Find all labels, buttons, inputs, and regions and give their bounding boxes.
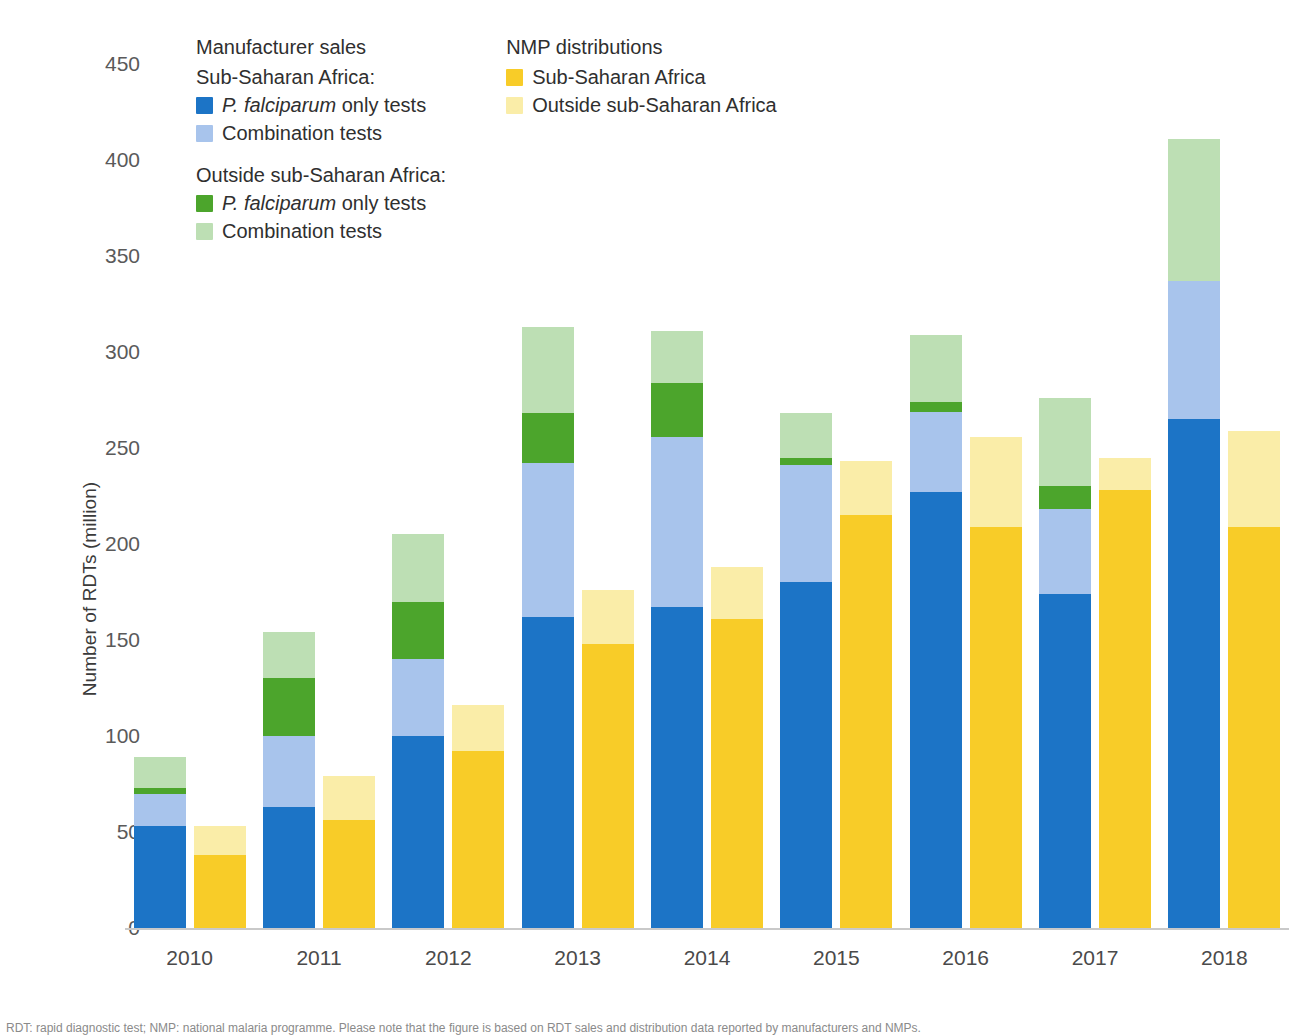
bar-segment-2015-s1[interactable] <box>840 461 892 515</box>
bar-segment-2013-s1[interactable] <box>582 590 634 644</box>
legend-item-manufacturer-sales-a-1[interactable]: Combination tests <box>196 119 446 147</box>
bar-segment-2015-s2[interactable] <box>780 458 832 466</box>
legend-swatch-icon <box>196 97 213 114</box>
bar-segment-2018-s1[interactable] <box>1168 281 1220 419</box>
bar-segment-2014-s0[interactable] <box>651 607 703 928</box>
bar-segment-2014-s0[interactable] <box>711 619 763 928</box>
bar-manufacturer-sales-2015[interactable] <box>780 413 832 928</box>
legend-label: Combination tests <box>222 217 382 245</box>
bar-segment-2017-s2[interactable] <box>1039 486 1091 509</box>
bar-nmp-distributions-2017[interactable] <box>1099 458 1151 928</box>
bar-group-2015 <box>772 413 901 928</box>
bar-segment-2013-s3[interactable] <box>522 327 574 413</box>
legend-label: Combination tests <box>222 119 382 147</box>
legend-item-manufacturer-sales-a-0[interactable]: P. falciparum only tests <box>196 91 446 119</box>
bar-segment-2018-s3[interactable] <box>1168 139 1220 281</box>
bar-segment-2012-s1[interactable] <box>392 659 444 736</box>
bar-segment-2010-s1[interactable] <box>194 826 246 855</box>
bar-segment-2015-s0[interactable] <box>780 582 832 928</box>
footnote-text: RDT: rapid diagnostic test; NMP: nationa… <box>0 1021 1299 1035</box>
bar-group-2013 <box>513 327 642 928</box>
bar-segment-2015-s0[interactable] <box>840 515 892 928</box>
bar-nmp-distributions-2015[interactable] <box>840 461 892 928</box>
bar-segment-2012-s3[interactable] <box>392 534 444 601</box>
bar-nmp-distributions-2011[interactable] <box>323 776 375 928</box>
bar-segment-2013-s1[interactable] <box>522 463 574 617</box>
legend-item-nmp-distributions-a-1[interactable]: Outside sub-Saharan Africa <box>506 91 777 119</box>
bar-manufacturer-sales-2013[interactable] <box>522 327 574 928</box>
bar-segment-2017-s0[interactable] <box>1099 490 1151 928</box>
legend-label: Outside sub-Saharan Africa <box>532 91 777 119</box>
bar-segment-2010-s0[interactable] <box>134 826 186 928</box>
bar-segment-2018-s0[interactable] <box>1228 527 1280 928</box>
chart-root: Number of RDTs (million) 050100150200250… <box>0 0 1299 1035</box>
x-tick-label-2018: 2018 <box>1144 946 1299 970</box>
bar-segment-2014-s1[interactable] <box>651 437 703 608</box>
bar-manufacturer-sales-2014[interactable] <box>651 331 703 928</box>
bar-segment-2016-s1[interactable] <box>970 437 1022 527</box>
bar-segment-2014-s3[interactable] <box>651 331 703 383</box>
bar-segment-2016-s0[interactable] <box>970 527 1022 928</box>
bar-segment-2012-s0[interactable] <box>392 736 444 928</box>
bar-manufacturer-sales-2017[interactable] <box>1039 398 1091 928</box>
bar-group-2012 <box>384 534 513 928</box>
bar-segment-2017-s1[interactable] <box>1099 458 1151 491</box>
bar-nmp-distributions-2016[interactable] <box>970 437 1022 929</box>
bar-segment-2012-s0[interactable] <box>452 751 504 928</box>
chart-legend: Manufacturer salesSub-Saharan Africa:P. … <box>196 33 777 245</box>
legend-item-nmp-distributions-a-0[interactable]: Sub-Saharan Africa <box>506 63 777 91</box>
bar-segment-2017-s0[interactable] <box>1039 594 1091 928</box>
bar-nmp-distributions-2012[interactable] <box>452 705 504 928</box>
footnote-strip: RDT: rapid diagnostic test; NMP: nationa… <box>0 1021 1299 1035</box>
bar-manufacturer-sales-2012[interactable] <box>392 534 444 928</box>
legend-item-manufacturer-sales-b-1[interactable]: Combination tests <box>196 217 446 245</box>
bar-manufacturer-sales-2018[interactable] <box>1168 139 1220 928</box>
bar-segment-2015-s3[interactable] <box>780 413 832 457</box>
bar-manufacturer-sales-2010[interactable] <box>134 757 186 928</box>
bar-segment-2017-s1[interactable] <box>1039 509 1091 593</box>
bar-nmp-distributions-2014[interactable] <box>711 567 763 928</box>
bar-segment-2016-s3[interactable] <box>910 335 962 402</box>
bar-segment-2010-s3[interactable] <box>134 757 186 788</box>
bar-segment-2012-s2[interactable] <box>392 602 444 660</box>
bar-manufacturer-sales-2011[interactable] <box>263 632 315 928</box>
legend-spacer <box>196 147 446 161</box>
bar-segment-2011-s2[interactable] <box>263 678 315 736</box>
legend-item-manufacturer-sales-b-0[interactable]: P. falciparum only tests <box>196 189 446 217</box>
bar-segment-2016-s1[interactable] <box>910 412 962 493</box>
bar-segment-2014-s2[interactable] <box>651 383 703 437</box>
bar-segment-2013-s0[interactable] <box>582 644 634 928</box>
bar-segment-2011-s3[interactable] <box>263 632 315 678</box>
bar-segment-2013-s2[interactable] <box>522 413 574 463</box>
legend-heading-manufacturer-sales: Manufacturer sales <box>196 33 446 61</box>
bar-group-2018 <box>1160 139 1289 928</box>
bar-manufacturer-sales-2016[interactable] <box>910 335 962 928</box>
bar-segment-2011-s0[interactable] <box>263 807 315 928</box>
bar-segment-2011-s0[interactable] <box>323 820 375 928</box>
y-axis-ticks: 050100150200250300350400450 <box>30 0 140 1035</box>
bar-group-2010 <box>125 757 254 928</box>
bar-segment-2013-s0[interactable] <box>522 617 574 928</box>
bar-nmp-distributions-2010[interactable] <box>194 826 246 928</box>
bar-segment-2018-s0[interactable] <box>1168 419 1220 928</box>
bar-segment-2018-s1[interactable] <box>1228 431 1280 527</box>
bar-nmp-distributions-2018[interactable] <box>1228 431 1280 928</box>
bar-segment-2011-s1[interactable] <box>323 776 375 820</box>
bar-segment-2016-s0[interactable] <box>910 492 962 928</box>
bar-segment-2010-s1[interactable] <box>134 794 186 827</box>
bar-segment-2017-s3[interactable] <box>1039 398 1091 486</box>
bar-group-2011 <box>254 632 383 928</box>
bar-segment-2010-s0[interactable] <box>194 855 246 928</box>
bar-group-2014 <box>642 331 771 928</box>
bar-segment-2015-s1[interactable] <box>780 465 832 582</box>
legend-subheading-manufacturer-sales-2: Outside sub-Saharan Africa: <box>196 161 446 189</box>
bar-segment-2012-s1[interactable] <box>452 705 504 751</box>
bar-group-2017 <box>1030 398 1159 928</box>
legend-subheading-manufacturer-sales-1: Sub-Saharan Africa: <box>196 63 446 91</box>
bar-nmp-distributions-2013[interactable] <box>582 590 634 928</box>
legend-swatch-icon <box>196 195 213 212</box>
bar-segment-2016-s2[interactable] <box>910 402 962 412</box>
bar-segment-2011-s1[interactable] <box>263 736 315 807</box>
bar-segment-2014-s1[interactable] <box>711 567 763 619</box>
legend-heading-nmp-distributions: NMP distributions <box>506 33 777 61</box>
